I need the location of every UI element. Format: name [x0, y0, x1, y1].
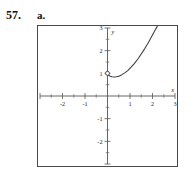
- coordinate-plot: -2-1123-2-1123xy: [38, 26, 177, 166]
- graph-frame: -2-1123-2-1123xy: [37, 25, 178, 167]
- curve-path: [107, 26, 159, 77]
- y-tick-label: 3: [99, 26, 102, 31]
- x-axis-label: x: [170, 86, 174, 93]
- y-tick-label: 2: [99, 47, 102, 54]
- exercise-number: 57.: [6, 8, 21, 23]
- y-tick-label: 1: [99, 70, 102, 77]
- y-tick-label: -2: [97, 138, 102, 145]
- y-axis-label: y: [111, 28, 115, 35]
- exercise-figure: 57. a. -2-1123-2-1123xy: [0, 0, 194, 174]
- x-tick-label: -2: [60, 100, 65, 107]
- exercise-part-label: a.: [37, 9, 45, 21]
- x-tick-label: -1: [82, 100, 87, 107]
- x-tick-label: 3: [173, 100, 176, 107]
- x-tick-label: 2: [151, 100, 154, 107]
- open-point-marker: [106, 71, 110, 75]
- x-tick-label: 1: [128, 100, 131, 107]
- y-tick-label: -1: [97, 115, 102, 122]
